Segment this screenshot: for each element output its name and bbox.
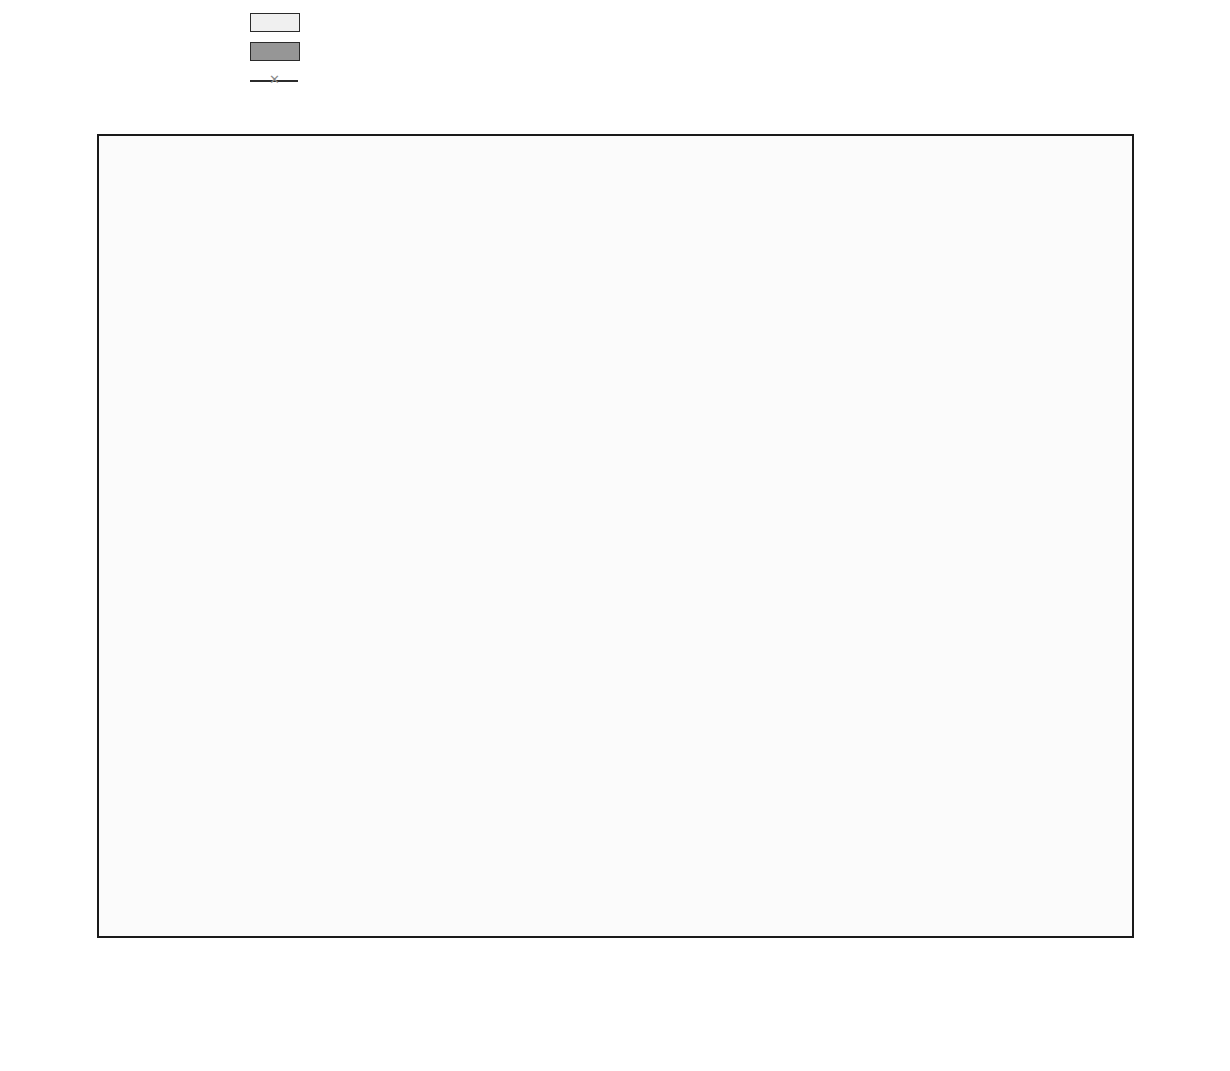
axis-label-layer	[0, 0, 1230, 1071]
